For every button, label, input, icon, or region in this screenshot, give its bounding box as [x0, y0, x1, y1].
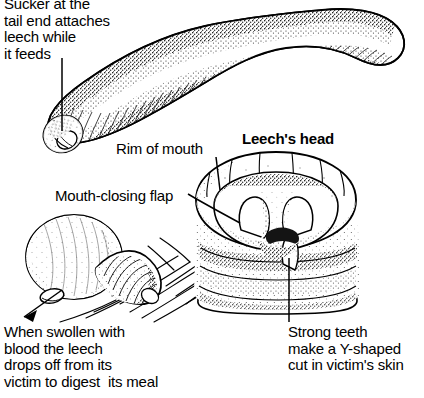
- caption-leechs-head: Leech's head: [242, 131, 334, 148]
- caption-rim-of-mouth: Rim of mouth: [116, 141, 203, 158]
- caption-mouth-closing-flap: Mouth-closing flap: [55, 188, 173, 205]
- caption-strong-teeth: Strong teeth make a Y-shaped cut in vict…: [288, 324, 404, 374]
- leech-head-illustration: [190, 152, 370, 317]
- caption-when-swollen-with-blood: When swollen with blood the leech drops …: [4, 324, 158, 390]
- caption-sucker-tail-end: Sucker at the tail end attaches leech wh…: [4, 0, 110, 62]
- leech-diagram-figure: Sucker at the tail end attaches leech wh…: [0, 0, 424, 398]
- engorged-leech-illustration: [26, 215, 214, 322]
